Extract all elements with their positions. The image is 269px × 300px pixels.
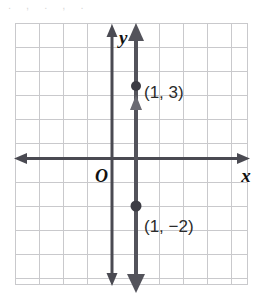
graph-svg: (1, 3) (1, −2) O y x: [0, 0, 269, 300]
x-axis-label: x: [240, 165, 251, 186]
grid-background: [15, 23, 248, 285]
point-label-1-3: (1, 3): [144, 83, 184, 102]
point-1-3: [131, 81, 141, 91]
y-axis-label: y: [117, 27, 128, 48]
point-1-minus-2: [131, 201, 142, 212]
origin-label: O: [95, 166, 108, 186]
point-label-1-minus-2: (1, −2): [144, 217, 194, 236]
coordinate-plane-figure: (1, 3) (1, −2) O y x: [0, 0, 269, 300]
